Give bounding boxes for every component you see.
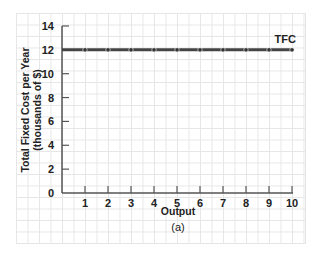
y-tick-label: 8 <box>48 92 54 104</box>
x-tick-label: 4 <box>151 197 158 209</box>
x-axis-title: Output <box>161 205 196 217</box>
data-point <box>267 48 271 52</box>
y-tick-label: 6 <box>48 115 54 127</box>
x-tick-label: 3 <box>128 197 134 209</box>
data-point <box>175 48 179 52</box>
y-axis-title-line1: Total Fixed Cost per Year <box>19 47 31 172</box>
x-tick-label: 8 <box>243 197 249 209</box>
tfc-line <box>62 48 294 52</box>
y-axis-title-line2: (thousands of $) <box>31 69 43 151</box>
series-label-tfc: TFC <box>275 33 296 45</box>
y-tick-label: 4 <box>48 139 55 151</box>
data-point <box>83 48 87 52</box>
data-point <box>244 48 248 52</box>
data-point <box>152 48 156 52</box>
data-point <box>106 48 110 52</box>
y-tick-label: 12 <box>42 44 54 56</box>
data-point <box>129 48 133 52</box>
data-point <box>290 48 294 52</box>
x-tick-label: 1 <box>82 197 88 209</box>
y-tick-label: 2 <box>48 163 54 175</box>
y-tick-label: 14 <box>42 20 55 32</box>
figure-caption: (a) <box>171 221 184 233</box>
data-point <box>221 48 225 52</box>
x-tick-label: 9 <box>266 197 272 209</box>
y-tick-label: 0 <box>48 187 54 199</box>
data-point <box>198 48 202 52</box>
x-tick-label: 6 <box>197 197 203 209</box>
y-tick-label: 10 <box>42 68 54 80</box>
y-axis-ticks: 02468101214 <box>42 20 69 199</box>
x-tick-label: 7 <box>220 197 226 209</box>
x-tick-label: 10 <box>286 197 298 209</box>
tfc-chart: 02468101214 12345678910 TFC Output (a) T… <box>0 0 318 254</box>
x-tick-label: 2 <box>105 197 111 209</box>
